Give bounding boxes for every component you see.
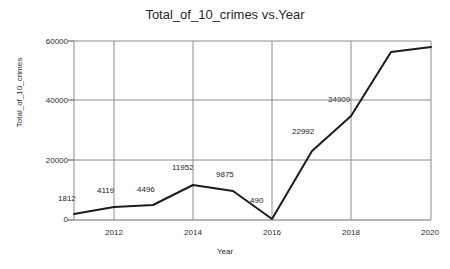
chart-plot-svg xyxy=(0,0,450,269)
data-series-line xyxy=(74,47,431,219)
grid-lines xyxy=(74,41,431,220)
chart-container: Total_of_10_crimes vs.Year Total_of_10_c… xyxy=(0,0,450,269)
y-tick-marks xyxy=(68,41,74,220)
